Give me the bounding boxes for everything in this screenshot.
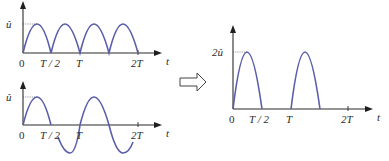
top-x-arrow-icon	[154, 50, 162, 56]
bottom-wave-1	[23, 97, 51, 125]
right-xhalf-label: T / 2	[249, 113, 269, 125]
bottom-x-arrow-icon	[154, 122, 162, 128]
bottom-chart: û 0 T / 2 T 2T t	[6, 81, 170, 153]
bottom-xT-label: T	[76, 129, 83, 141]
top-y-label: û	[6, 18, 12, 30]
right-x0-label: 0	[229, 113, 235, 125]
top-chart: û 0 T / 2 T 2T t	[6, 1, 170, 69]
right-chart: 2û 0 T / 2 T 2T t	[212, 25, 381, 125]
implies-arrow-icon	[180, 73, 206, 91]
bottom-xhalf-label: T / 2	[40, 129, 60, 141]
right-t-label: t	[377, 111, 381, 123]
diagram-canvas: û 0 T / 2 T 2T t û 0 T / 2 T 2T t 2û	[0, 0, 389, 161]
top-y-arrow-icon	[20, 1, 26, 9]
right-y-label: 2û	[212, 46, 224, 58]
bottom-y-arrow-icon	[20, 81, 26, 89]
right-x-arrow-icon	[365, 106, 373, 112]
top-t-label: t	[166, 55, 170, 67]
bottom-t-label: t	[166, 127, 170, 139]
top-x2T-label: 2T	[131, 57, 144, 69]
right-x2T-label: 2T	[341, 113, 354, 125]
top-xhalf-label: T / 2	[40, 57, 60, 69]
bottom-x2T-label: 2T	[131, 129, 144, 141]
bottom-y-label: û	[6, 91, 12, 103]
right-xT-label: T	[286, 113, 293, 125]
right-pulse-2	[291, 52, 320, 109]
top-xT-label: T	[76, 57, 83, 69]
top-x0-label: 0	[19, 57, 25, 69]
right-y-arrow-icon	[230, 25, 236, 33]
bottom-x0-label: 0	[19, 129, 25, 141]
top-wave	[23, 24, 138, 53]
right-pulse-1	[233, 52, 262, 109]
